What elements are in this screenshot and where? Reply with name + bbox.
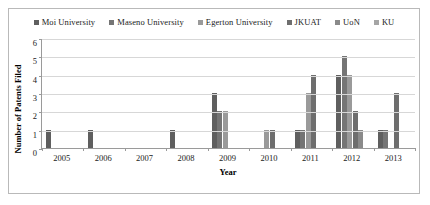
y-axis-tick-label: 2 <box>33 111 37 121</box>
legend-swatch-icon <box>374 20 379 25</box>
legend-swatch-icon <box>34 20 39 25</box>
bar <box>212 93 217 148</box>
legend-item[interactable]: Maseno University <box>109 17 184 27</box>
chart-legend: Moi UniversityMaseno UniversityEgerton U… <box>9 17 419 27</box>
legend-swatch-icon <box>335 20 340 25</box>
y-axis-tickmark <box>39 39 42 40</box>
plot-area <box>41 39 415 149</box>
plot-area-wrapper: Number of Patents Filed 0123456 20052006… <box>9 35 421 195</box>
x-axis-tick-label: 2008 <box>178 153 195 163</box>
y-axis-tick-label: 6 <box>33 38 37 48</box>
x-axis-tick-label: 2007 <box>136 153 153 163</box>
y-axis-title: Number of Patents Filed <box>11 63 25 155</box>
y-axis-tickmark <box>39 131 42 132</box>
bar <box>306 93 311 148</box>
x-axis-tick-label: 2005 <box>53 153 70 163</box>
x-axis-title: Year <box>41 167 415 177</box>
x-axis-tick-label: 2006 <box>95 153 112 163</box>
legend-item-label: JKUAT <box>295 17 321 27</box>
gridline <box>42 94 415 95</box>
y-axis-tick-label: 4 <box>33 75 37 85</box>
legend-item-label: KU <box>382 17 394 27</box>
bar <box>46 130 51 148</box>
x-axis-tick-label: 2009 <box>219 153 236 163</box>
bar <box>88 130 93 148</box>
y-axis-tickmark <box>39 112 42 113</box>
legend-item[interactable]: Moi University <box>34 17 96 27</box>
y-axis-tickmark <box>39 94 42 95</box>
legend-item[interactable]: UoN <box>335 17 360 27</box>
y-axis-tick-label: 5 <box>33 56 37 66</box>
legend-swatch-icon <box>287 20 292 25</box>
legend-item-label: Egerton University <box>206 17 273 27</box>
x-axis-tickmark <box>125 148 126 151</box>
bar <box>394 93 399 148</box>
gridline <box>42 57 415 58</box>
bar <box>264 130 269 148</box>
legend-item-label: Moi University <box>42 17 96 27</box>
bar <box>336 75 341 148</box>
bar <box>270 130 275 148</box>
gridline <box>42 39 415 40</box>
x-axis-tick-label: 2010 <box>260 153 277 163</box>
bar <box>311 75 316 148</box>
legend-swatch-icon <box>109 20 114 25</box>
x-axis-tickmark <box>249 148 250 151</box>
y-axis-tick-labels: 0123456 <box>25 39 39 149</box>
x-axis-tickmark <box>83 148 84 151</box>
y-axis-title-text: Number of Patents Filed <box>13 65 23 154</box>
legend-item[interactable]: KU <box>374 17 394 27</box>
x-axis-tickmark <box>166 148 167 151</box>
x-axis-tick-label: 2013 <box>385 153 402 163</box>
bar <box>358 130 363 148</box>
bar <box>295 130 300 148</box>
legend-item-label: UoN <box>343 17 360 27</box>
x-axis-tickmark <box>374 148 375 151</box>
x-axis-tickmark <box>415 148 416 151</box>
x-axis-tickmark <box>42 148 43 151</box>
y-axis-tickmark <box>39 76 42 77</box>
x-axis-tick-label: 2011 <box>302 153 319 163</box>
legend-item[interactable]: JKUAT <box>287 17 321 27</box>
x-axis-tickmark <box>291 148 292 151</box>
x-axis-tick-label: 2012 <box>343 153 360 163</box>
bar <box>383 130 388 148</box>
y-axis-tick-label: 1 <box>33 130 37 140</box>
gridline <box>42 131 415 132</box>
bar <box>347 75 352 148</box>
bar <box>342 56 347 148</box>
legend-swatch-icon <box>198 20 203 25</box>
x-axis-tickmark <box>208 148 209 151</box>
y-axis-tickmark <box>39 57 42 58</box>
chart-frame: Moi UniversityMaseno UniversityEgerton U… <box>8 8 420 194</box>
x-axis-tick-labels: 200520062007200820092010201120122013 <box>41 153 415 165</box>
gridline <box>42 112 415 113</box>
bar <box>170 130 175 148</box>
bar <box>300 130 305 148</box>
x-axis-tickmark <box>332 148 333 151</box>
legend-item[interactable]: Egerton University <box>198 17 273 27</box>
y-axis-tick-label: 3 <box>33 93 37 103</box>
gridline <box>42 76 415 77</box>
legend-item-label: Maseno University <box>117 17 184 27</box>
bar <box>378 130 383 148</box>
y-axis-tick-label: 0 <box>33 148 37 158</box>
